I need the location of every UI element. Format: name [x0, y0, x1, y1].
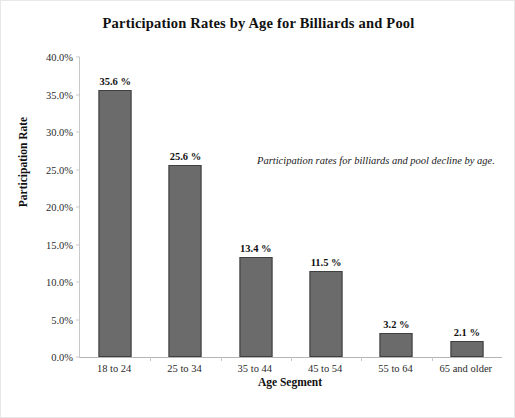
bar[interactable]: [169, 165, 202, 357]
x-axis-category-label: 35 to 44: [220, 363, 290, 374]
y-axis-tick-label: 30.0%: [46, 127, 73, 138]
bar-slot: 2.1 %: [432, 57, 502, 357]
bar-slot: 11.5 %: [291, 57, 361, 357]
bar-value-label: 13.4 %: [240, 243, 272, 254]
y-axis-tick-label: 5.0%: [51, 314, 73, 325]
bar-value-label: 3.2 %: [383, 319, 409, 330]
x-axis-tick-mark: [221, 357, 222, 361]
chart-title: Participation Rates by Age for Billiards…: [1, 15, 515, 32]
x-axis-tick-mark: [291, 357, 292, 361]
bar-slot: 25.6 %: [150, 57, 220, 357]
bar[interactable]: [310, 271, 343, 357]
bar-value-label: 35.6 %: [99, 76, 131, 87]
bar-series: 35.6 %25.6 %13.4 %11.5 %3.2 %2.1 %: [80, 57, 502, 357]
bar-slot: 3.2 %: [361, 57, 431, 357]
x-axis-category-label: 18 to 24: [79, 363, 149, 374]
y-axis-tick-label: 0.0%: [51, 352, 73, 363]
chart-annotation: Participation rates for billiards and po…: [257, 155, 495, 166]
x-axis-tick-mark: [432, 357, 433, 361]
chart-figure: Participation Rates by Age for Billiards…: [0, 0, 515, 418]
x-axis-category-label: 25 to 34: [149, 363, 219, 374]
y-axis-title: Participation Rate: [17, 92, 29, 232]
bar-value-label: 2.1 %: [454, 327, 480, 338]
bar-slot: 13.4 %: [221, 57, 291, 357]
x-axis-title: Age Segment: [79, 376, 501, 388]
x-axis-tick-mark: [361, 357, 362, 361]
bar[interactable]: [450, 341, 483, 357]
y-axis-tick-label: 20.0%: [46, 202, 73, 213]
x-axis-tick-mark: [150, 357, 151, 361]
bar-value-label: 11.5 %: [311, 257, 342, 268]
bar-value-label: 25.6 %: [170, 151, 202, 162]
y-axis-tick-label: 35.0%: [46, 89, 73, 100]
bar[interactable]: [239, 257, 272, 358]
bar[interactable]: [380, 333, 413, 357]
x-axis-category-label: 45 to 54: [290, 363, 360, 374]
bar[interactable]: [99, 90, 132, 357]
y-axis-tick-label: 15.0%: [46, 239, 73, 250]
bar-slot: 35.6 %: [80, 57, 150, 357]
x-axis-category-label: 65 and older: [431, 363, 501, 374]
y-axis-tick-label: 25.0%: [46, 164, 73, 175]
x-axis-category-label: 55 to 64: [360, 363, 430, 374]
y-axis-tick-label: 40.0%: [46, 52, 73, 63]
plot-area: 0.0%5.0%10.0%15.0%20.0%25.0%30.0%35.0%40…: [79, 57, 502, 358]
y-axis-tick-label: 10.0%: [46, 277, 73, 288]
